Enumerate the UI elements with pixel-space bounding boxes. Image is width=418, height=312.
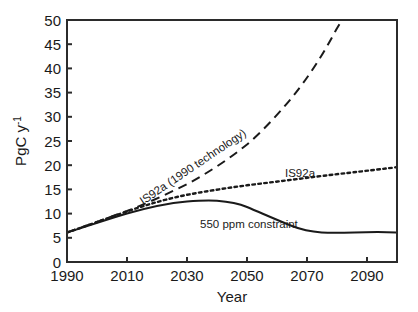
y-tick-label: 15 bbox=[44, 181, 61, 198]
y-tick-label: 25 bbox=[44, 133, 61, 150]
y-tick-label: 35 bbox=[44, 84, 61, 101]
y-tick-label: 5 bbox=[53, 229, 61, 246]
y-tick-labels: 50 45 40 35 30 25 20 15 10 5 0 bbox=[44, 12, 61, 271]
y-tick-label: 45 bbox=[44, 36, 61, 53]
y-axis-title-exponent: -1 bbox=[12, 116, 23, 125]
y-tick-label: 10 bbox=[44, 205, 61, 222]
x-tick-label: 2030 bbox=[170, 267, 203, 284]
x-tick-label: 2090 bbox=[350, 267, 383, 284]
x-tick-label: 2050 bbox=[230, 267, 263, 284]
y-tick-label: 40 bbox=[44, 60, 61, 77]
y-tick-label: 30 bbox=[44, 108, 61, 125]
y-tick-label: 20 bbox=[44, 157, 61, 174]
x-tick-label: 2010 bbox=[110, 267, 143, 284]
chart-figure: 50 45 40 35 30 25 20 15 10 5 0 1990 2010… bbox=[0, 0, 418, 312]
series-label-550ppm-constraint: 550 ppm constraint bbox=[200, 218, 299, 230]
emissions-scenarios-chart: 50 45 40 35 30 25 20 15 10 5 0 1990 2010… bbox=[0, 0, 418, 312]
series-label-is92a: IS92a bbox=[285, 167, 316, 179]
svg-text:PgC y-1: PgC y-1 bbox=[12, 116, 29, 166]
y-axis-title: PgC y-1 bbox=[12, 116, 29, 166]
y-tick-label: 50 bbox=[44, 12, 61, 29]
x-tick-labels: 1990 2010 2030 2050 2070 2090 bbox=[50, 267, 383, 284]
y-axis-title-base: PgC y bbox=[12, 125, 29, 166]
x-tick-label: 2070 bbox=[290, 267, 323, 284]
x-tick-label: 1990 bbox=[50, 267, 83, 284]
x-axis-title: Year bbox=[217, 288, 247, 305]
